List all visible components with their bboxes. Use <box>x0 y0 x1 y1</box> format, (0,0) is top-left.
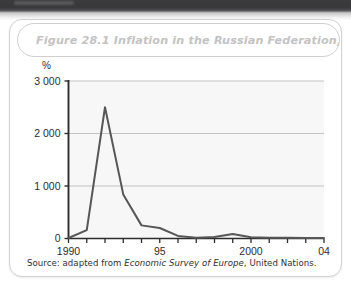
source-prefix: Source: adapted from <box>27 258 124 268</box>
page-edge-band <box>0 0 351 13</box>
page-title: Figure 28.1 Inflation in the Russian Fed… <box>18 34 340 47</box>
chart-source-note: Source: adapted from Economic Survey of … <box>27 258 317 268</box>
source-suffix: , United Nations. <box>244 258 317 268</box>
figure-card <box>9 19 342 277</box>
page-edge-highlight <box>14 1 74 5</box>
source-publication: Economic Survey of Europe <box>124 258 244 268</box>
figure-title-box: Figure 28.1 Inflation in the Russian Fed… <box>17 23 340 57</box>
